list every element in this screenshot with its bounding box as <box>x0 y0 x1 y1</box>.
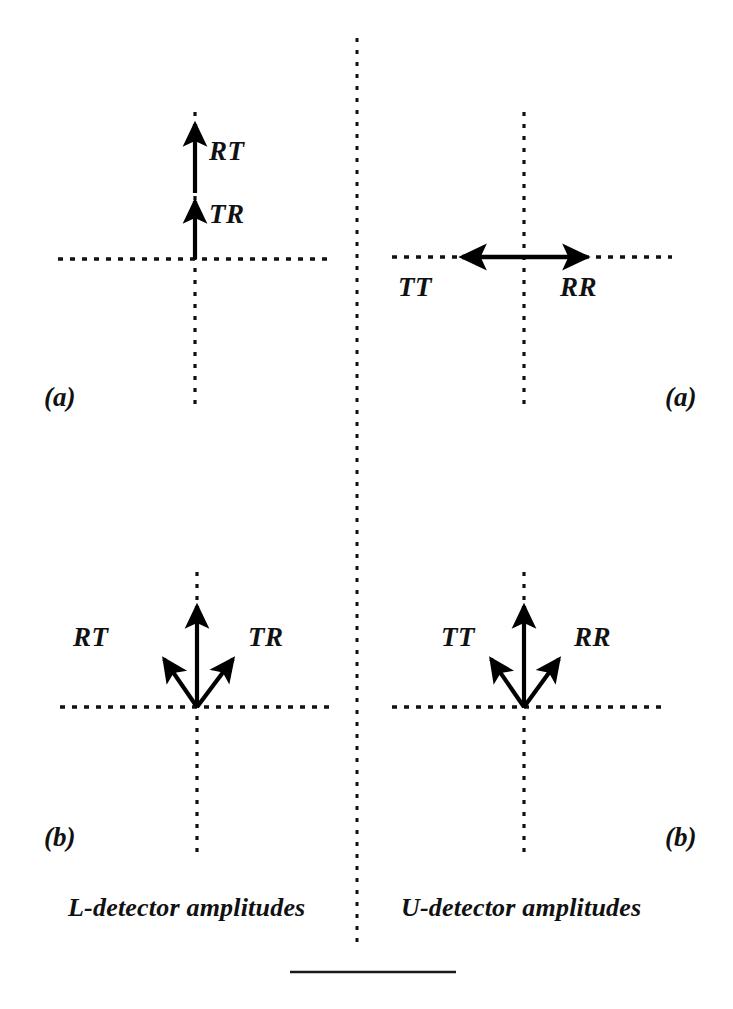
label-vector-RT-lower-left: RT <box>73 622 108 653</box>
panel-upper-left <box>58 112 331 405</box>
vector-RR <box>524 659 559 707</box>
panel-upper-right <box>392 112 672 405</box>
figure-root: RT TR (a) TT RR (a) RT TR (b) TT RR (b) … <box>0 0 733 1009</box>
label-vector-TR-lower-left: TR <box>248 622 283 653</box>
label-vector-RR-lower-right: RR <box>574 622 611 653</box>
panel-label-lower-left: (b) <box>44 822 75 853</box>
vector-RT <box>164 659 197 707</box>
label-vector-TT-lower-right: TT <box>441 622 475 653</box>
label-vector-RT-upper-left: RT <box>209 136 244 167</box>
panel-label-lower-right: (b) <box>665 822 696 853</box>
panel-lower-left <box>60 572 333 855</box>
panel-label-upper-right: (a) <box>665 382 696 413</box>
caption-u-detector: U-detector amplitudes <box>401 893 641 923</box>
figure-canvas <box>0 0 733 1009</box>
panel-lower-right <box>392 572 668 855</box>
label-vector-RR-upper-right: RR <box>560 272 597 303</box>
label-vector-TT-upper-right: TT <box>398 272 432 303</box>
label-vector-TR-upper-left: TR <box>209 199 244 230</box>
vector-TR <box>197 659 233 707</box>
panel-label-upper-left: (a) <box>44 382 75 413</box>
vector-TT <box>491 659 524 707</box>
caption-l-detector: L-detector amplitudes <box>68 893 305 923</box>
